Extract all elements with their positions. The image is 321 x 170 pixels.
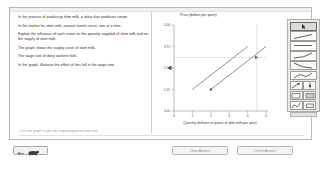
tool-grid <box>290 22 319 111</box>
freehand-tool[interactable] <box>290 101 303 110</box>
y-tick-label-3: 3.75 <box>164 45 170 49</box>
clear-answer-button[interactable]: Clear Answer <box>172 146 228 155</box>
drawing-toolbar[interactable] <box>287 19 320 112</box>
panel-top-strip <box>10 8 311 12</box>
supply-curve-chart[interactable]: 0.00 1.25 2.50 3.75 5.00 0 1 2 3 4 <box>154 13 276 129</box>
x-tick-label-4: 4 <box>247 114 249 118</box>
x-tick-label-1: 1 <box>192 114 194 118</box>
y-tick-label-1: 1.25 <box>164 88 170 92</box>
question-paragraph-5: The wage rate of dairy workers falls. <box>18 54 149 59</box>
plotted-point-marker[interactable] <box>210 89 212 91</box>
question-paragraph-1: In the process of producing skim milk, a… <box>18 15 149 20</box>
supply-curve-shifted[interactable] <box>211 47 266 90</box>
curve-up-tool[interactable] <box>290 51 317 60</box>
supply-curve-original[interactable] <box>192 47 247 90</box>
hint-text: Click the graph to plot the required poi… <box>19 129 304 133</box>
toolbar-footer[interactable] <box>290 112 317 117</box>
y-tick-label-0: 0.00 <box>164 109 170 113</box>
x-tick-label-5: 5 <box>265 114 267 118</box>
graph-area[interactable]: Price (dollars per quart) 0 <box>154 13 276 129</box>
question-paragraph-4: The graph shows the supply curve of skim… <box>18 46 149 51</box>
x-tick-label-0: 0 <box>173 114 175 118</box>
question-paragraph-2: In the market for skim milk, several eve… <box>18 24 149 29</box>
cow-icon <box>27 142 39 160</box>
curve-down-tool[interactable] <box>290 61 317 70</box>
question-panel: In the process of producing skim milk, a… <box>9 7 312 140</box>
column-divider <box>151 12 152 134</box>
page-navigator[interactable] <box>13 146 48 155</box>
horizontal-line-tool[interactable] <box>290 41 317 50</box>
question-paragraph-6: In the graph, illustrate the effect of t… <box>18 63 149 68</box>
point-tool[interactable] <box>303 81 316 90</box>
assignment-window: In the process of producing skim milk, a… <box>0 0 321 170</box>
shade-tool[interactable] <box>303 91 316 100</box>
question-text-column: In the process of producing skim milk, a… <box>18 15 149 127</box>
y-tick-marks <box>172 25 175 111</box>
arrow-tool[interactable] <box>290 81 303 90</box>
y-tick-label-4: 5.00 <box>164 23 170 27</box>
line-tool[interactable] <box>290 31 317 40</box>
x-axis-label: Quantity (millions of quarts of skim mil… <box>183 121 256 125</box>
question-paragraph-3: Explain the influence of each event on t… <box>18 32 149 41</box>
footer-bar: Clear Answer Check Answer <box>9 144 312 160</box>
curve-s-tool[interactable] <box>290 71 317 80</box>
x-tick-marks <box>174 111 266 114</box>
x-tick-label-3: 3 <box>228 114 230 118</box>
label-box-tool[interactable] <box>290 91 303 100</box>
check-answer-button[interactable]: Check Answer <box>237 146 293 155</box>
eraser-tool[interactable] <box>303 101 316 110</box>
previous-arrow-icon[interactable] <box>16 142 25 160</box>
pointer-tool[interactable] <box>290 22 317 31</box>
x-tick-label-2: 2 <box>210 114 212 118</box>
hint-divider <box>19 135 304 136</box>
